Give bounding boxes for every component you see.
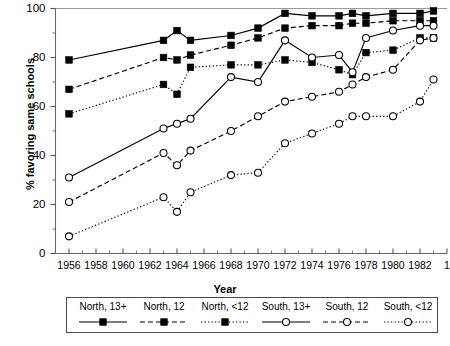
data-point-marker	[160, 125, 167, 132]
data-point-marker	[187, 147, 194, 154]
data-point-marker	[174, 208, 181, 215]
data-point-marker	[309, 93, 316, 100]
data-point-marker	[336, 22, 343, 29]
data-point-marker	[66, 199, 73, 206]
data-point-marker	[160, 194, 167, 201]
data-point-marker	[309, 13, 316, 20]
data-point-marker	[174, 162, 181, 169]
legend-item-north-12[interactable]: North, 12	[132, 301, 196, 329]
data-point-marker	[390, 17, 397, 24]
data-point-marker	[187, 37, 194, 44]
data-point-marker	[417, 98, 424, 105]
data-point-marker	[349, 81, 356, 88]
series-south-13	[66, 22, 438, 181]
data-point-marker	[228, 42, 235, 49]
data-point-marker	[430, 8, 437, 15]
data-point-marker	[228, 74, 235, 81]
legend-swatch	[315, 315, 379, 329]
data-point-marker	[282, 140, 289, 147]
legend-marker	[283, 319, 290, 326]
data-point-marker	[66, 233, 73, 240]
legend-item-south-12[interactable]: South, 12	[315, 301, 379, 329]
legend-label: South, 12	[315, 301, 379, 313]
data-point-marker	[187, 52, 194, 59]
series-line	[69, 38, 434, 202]
data-point-marker	[363, 34, 370, 41]
legend-marker	[100, 319, 107, 326]
data-point-marker	[390, 66, 397, 73]
data-point-marker	[363, 74, 370, 81]
data-point-marker	[187, 115, 194, 122]
data-point-marker	[309, 54, 316, 61]
legend-label: North, 12	[132, 301, 196, 313]
data-point-marker	[430, 34, 437, 41]
data-point-marker	[430, 76, 437, 83]
data-point-marker	[174, 120, 181, 127]
data-point-marker	[228, 62, 235, 69]
legend-marker	[344, 319, 351, 326]
data-point-marker	[255, 35, 262, 42]
legend-item-south-13[interactable]: South, 13+	[254, 301, 318, 329]
data-point-marker	[309, 130, 316, 137]
data-point-marker	[228, 32, 235, 39]
data-point-marker	[417, 10, 424, 17]
series-north-12	[66, 17, 437, 92]
data-point-marker	[66, 111, 73, 118]
data-point-marker	[309, 22, 316, 29]
data-point-marker	[363, 113, 370, 120]
legend-label: North, <12	[193, 301, 257, 313]
series-line	[69, 80, 434, 237]
legend-marker	[161, 319, 168, 326]
legend-swatch	[193, 315, 257, 329]
data-point-marker	[349, 10, 356, 17]
data-point-marker	[336, 66, 343, 73]
legend-marker	[405, 319, 412, 326]
legend-label: South, 13+	[254, 301, 318, 313]
chart-legend: North, 13+North, 12North, <12South, 13+S…	[66, 297, 438, 333]
series-line	[69, 38, 434, 114]
series-north-12	[66, 35, 437, 118]
data-point-marker	[363, 13, 370, 20]
legend-marker	[222, 319, 229, 326]
data-point-marker	[255, 113, 262, 120]
data-point-marker	[417, 22, 424, 29]
data-point-marker	[417, 37, 424, 44]
series-line	[69, 11, 434, 60]
plot-canvas	[0, 0, 450, 346]
data-point-marker	[349, 69, 356, 76]
legend-swatch	[254, 315, 318, 329]
series-south-12	[66, 34, 438, 205]
data-point-marker	[390, 113, 397, 120]
data-point-marker	[349, 20, 356, 27]
data-point-marker	[187, 64, 194, 71]
series-south-12	[66, 76, 438, 240]
series-line	[69, 21, 434, 90]
data-point-marker	[255, 79, 262, 86]
data-point-marker	[390, 47, 397, 54]
data-point-marker	[349, 113, 356, 120]
data-point-marker	[282, 37, 289, 44]
data-point-marker	[66, 86, 73, 93]
data-point-marker	[336, 52, 343, 59]
data-point-marker	[160, 150, 167, 157]
legend-swatch	[132, 315, 196, 329]
legend-item-north-12[interactable]: North, <12	[193, 301, 257, 329]
series-north-13	[66, 8, 437, 64]
data-point-marker	[390, 10, 397, 17]
data-point-marker	[66, 57, 73, 64]
legend-label: South, <12	[376, 301, 440, 313]
data-point-marker	[282, 10, 289, 17]
legend-label: North, 13+	[71, 301, 135, 313]
data-point-marker	[363, 20, 370, 27]
data-point-marker	[336, 120, 343, 127]
data-point-marker	[187, 189, 194, 196]
data-point-marker	[255, 62, 262, 69]
legend-swatch	[376, 315, 440, 329]
data-point-marker	[282, 98, 289, 105]
data-point-marker	[430, 22, 437, 29]
data-point-marker	[160, 37, 167, 44]
legend-item-south-12[interactable]: South, <12	[376, 301, 440, 329]
legend-item-north-13[interactable]: North, 13+	[71, 301, 135, 329]
data-point-marker	[282, 57, 289, 64]
data-point-marker	[255, 169, 262, 176]
